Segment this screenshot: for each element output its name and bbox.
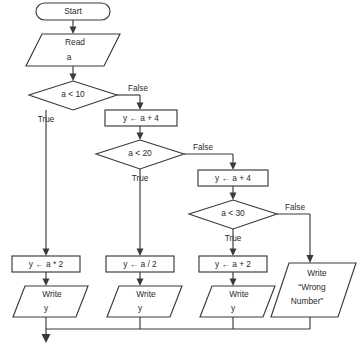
assign-y-a-times-2-label: y ← a * 2: [29, 259, 64, 269]
node-cond-a-lt-20[interactable]: a < 20: [96, 140, 184, 169]
edge-label-true-a10: True: [38, 115, 55, 124]
node-assign-y-a-plus-4-first[interactable]: y ← a + 4: [105, 110, 177, 126]
node-cond-a-lt-10[interactable]: a < 10: [29, 81, 117, 110]
arrow-assign-plus2-to-write3: [230, 279, 237, 287]
arrow-cond30-true: [230, 249, 237, 257]
node-write-wrong-number[interactable]: Write “Wrong Number”: [271, 263, 356, 317]
write-y-2-label-line1: Write: [136, 289, 156, 299]
write-y-3-label-line1: Write: [229, 289, 249, 299]
arrow-cond30-false: [307, 255, 314, 263]
write-wrong-number-label-line2: “Wrong: [298, 282, 326, 292]
assign-y-a-plus-4-second-label: y ← a + 4: [215, 173, 251, 183]
cond-a-lt-20-label: a < 20: [128, 148, 152, 158]
arrow-cond10-true: [43, 249, 50, 257]
write-wrong-number-label-line1: Write: [307, 268, 327, 278]
write-y-1-label-line1: Write: [42, 289, 62, 299]
arrow-assign-a2-to-write1: [43, 279, 50, 287]
assign-y-a-plus-2-label: y ← a + 2: [215, 259, 251, 269]
write-wrong-number-label-line3: Number”: [291, 296, 324, 306]
node-assign-y-a-times-2[interactable]: y ← a * 2: [12, 256, 80, 272]
node-cond-a-lt-30[interactable]: a < 30: [189, 200, 277, 229]
start-label: Start: [64, 6, 82, 16]
arrow-cond10-false: [137, 103, 144, 111]
node-read-a[interactable]: Read a: [26, 34, 120, 66]
node-start[interactable]: Start: [36, 3, 110, 20]
node-write-y-1[interactable]: Write y: [13, 286, 88, 317]
arrow-cond20-false: [230, 163, 237, 171]
node-assign-y-a-div-2[interactable]: y ← a / 2: [106, 256, 174, 272]
arrow-merge-exit: [42, 334, 51, 343]
arrow-assign2-to-cond30: [230, 193, 237, 201]
flowchart-svg: Start Read a a < 10 False True y ← a + 4…: [0, 0, 362, 351]
node-write-y-2[interactable]: Write y: [107, 286, 182, 317]
arrow-read-to-cond10: [70, 74, 77, 82]
read-a-label-line2: a: [67, 52, 72, 62]
arrow-start-to-read: [70, 27, 77, 35]
node-assign-y-a-plus-4-second[interactable]: y ← a + 4: [198, 170, 268, 186]
edge-label-false-a20: False: [193, 143, 213, 152]
edge-label-false-a30: False: [285, 203, 305, 212]
node-write-y-3[interactable]: Write y: [200, 286, 275, 317]
read-a-label-line1: Read: [65, 37, 85, 47]
cond-a-lt-30-label: a < 30: [221, 208, 245, 218]
cond-a-lt-10-label: a < 10: [61, 89, 85, 99]
flowchart-canvas: Start Read a a < 10 False True y ← a + 4…: [0, 0, 362, 351]
node-assign-y-a-plus-2[interactable]: y ← a + 2: [199, 256, 267, 272]
edge-label-true-a30: True: [225, 234, 242, 243]
arrow-cond20-true: [137, 249, 144, 257]
edge-label-false-a10: False: [128, 84, 148, 93]
edge-label-true-a20: True: [132, 174, 149, 183]
arrow-assign-div2-to-write2: [137, 279, 144, 287]
assign-y-a-plus-4-first-label: y ← a + 4: [123, 113, 159, 123]
assign-y-a-div-2-label: y ← a / 2: [123, 259, 157, 269]
arrow-assign1-to-cond20: [137, 133, 144, 141]
